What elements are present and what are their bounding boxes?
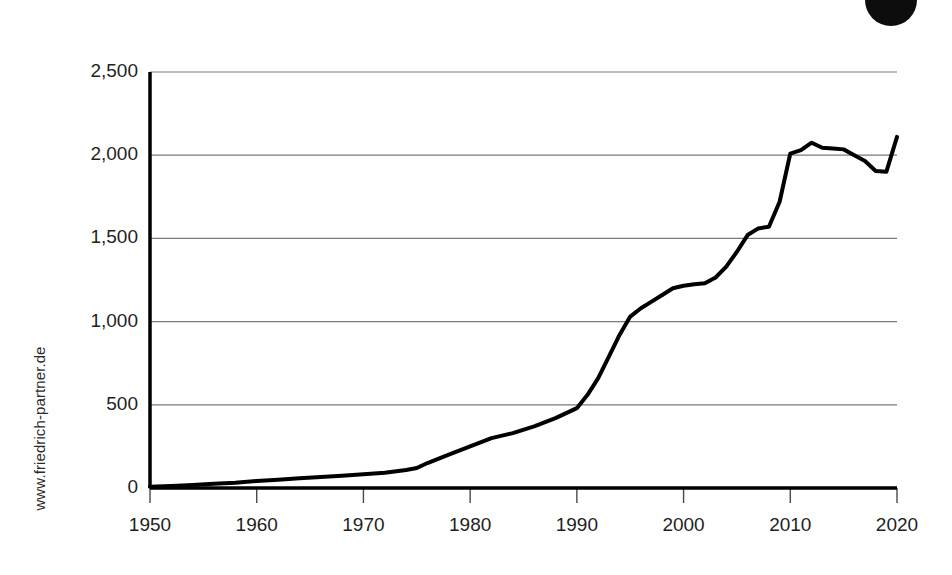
- x-tick-label: 1970: [318, 514, 408, 536]
- chart-figure: www.friedrich-partner.de 05001,0001,5002…: [0, 0, 952, 575]
- x-tick-label: 2000: [639, 514, 729, 536]
- x-axis-tick-labels: 19501960197019801990200020102020: [0, 0, 952, 575]
- x-tick-label: 2010: [745, 514, 835, 536]
- x-tick-label: 1950: [105, 514, 195, 536]
- x-tick-label: 1990: [532, 514, 622, 536]
- x-tick-label: 1960: [212, 514, 302, 536]
- x-tick-label: 2020: [852, 514, 942, 536]
- x-tick-label: 1980: [425, 514, 515, 536]
